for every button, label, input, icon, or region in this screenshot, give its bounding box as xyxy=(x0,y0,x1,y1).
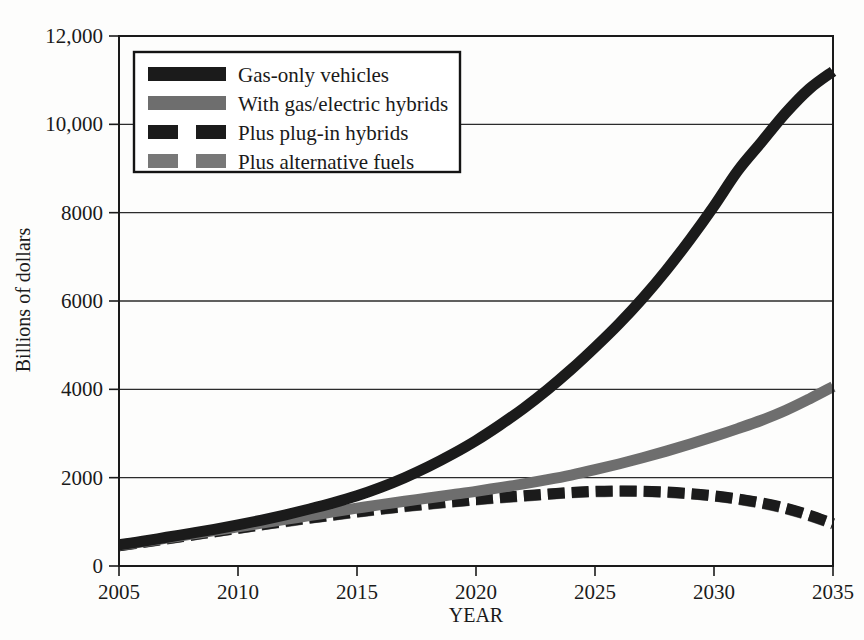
x-tick-label: 2015 xyxy=(336,580,378,604)
legend-swatch-dash xyxy=(196,154,226,168)
gridlines xyxy=(119,124,833,477)
x-axis-title: YEAR xyxy=(449,604,504,626)
x-tick-label: 2020 xyxy=(455,580,497,604)
y-tick-label: 4000 xyxy=(61,377,103,401)
legend-swatch-solid xyxy=(148,67,226,81)
line-chart: 0200040006000800010,00012,000 2005201020… xyxy=(0,0,864,640)
legend-label: Plus alternative fuels xyxy=(238,150,414,174)
legend-swatch-dash xyxy=(196,125,226,139)
legend-swatch-solid xyxy=(148,96,226,110)
y-tick-label: 12,000 xyxy=(45,24,103,48)
y-tick-label: 8000 xyxy=(61,201,103,225)
y-tick-label: 6000 xyxy=(61,289,103,313)
chart-page: 0200040006000800010,00012,000 2005201020… xyxy=(0,0,864,640)
legend-swatch-dash xyxy=(148,154,178,168)
legend-swatch-dash xyxy=(148,125,178,139)
y-tick-label: 10,000 xyxy=(45,112,103,136)
y-axis-ticks: 0200040006000800010,00012,000 xyxy=(45,24,119,578)
legend-label: Plus plug-in hybrids xyxy=(238,121,408,145)
series-line xyxy=(119,491,833,546)
chart-legend: Gas-only vehiclesWith gas/electric hybri… xyxy=(134,52,460,174)
x-tick-label: 2025 xyxy=(574,580,616,604)
series-line xyxy=(119,387,833,546)
legend-label: Gas-only vehicles xyxy=(238,63,389,87)
y-axis-title: Billions of dollars xyxy=(12,228,34,373)
y-tick-label: 0 xyxy=(93,554,104,578)
x-tick-label: 2005 xyxy=(98,580,140,604)
y-tick-label: 2000 xyxy=(61,466,103,490)
x-tick-label: 2035 xyxy=(812,580,854,604)
x-tick-label: 2010 xyxy=(217,580,259,604)
x-tick-label: 2030 xyxy=(693,580,735,604)
x-axis-ticks: 2005201020152020202520302035 xyxy=(98,566,854,604)
legend-label: With gas/electric hybrids xyxy=(238,92,448,116)
